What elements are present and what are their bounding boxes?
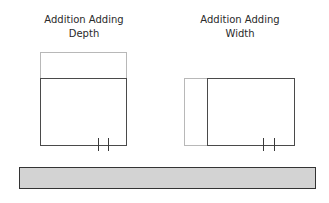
width-addition-box: [184, 78, 209, 146]
tick-mark: [98, 138, 99, 151]
diagram-title-depth: Addition Adding Depth: [24, 13, 144, 41]
title-line-1: Addition Adding: [24, 13, 144, 27]
existing-building-box: [40, 78, 127, 146]
diagram-title-width: Addition Adding Width: [180, 13, 300, 41]
ground-bar: [19, 167, 316, 189]
title-line-2: Width: [180, 27, 300, 41]
tick-mark: [274, 138, 275, 151]
tick-mark: [108, 138, 109, 151]
title-line-1: Addition Adding: [180, 13, 300, 27]
existing-building-box: [207, 78, 295, 146]
tick-mark: [263, 138, 264, 151]
title-line-2: Depth: [24, 27, 144, 41]
depth-addition-box: [40, 52, 127, 79]
